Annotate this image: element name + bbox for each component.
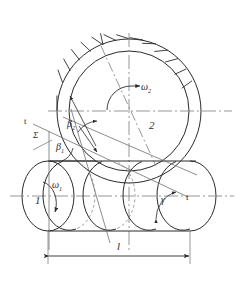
label-length-l: l	[117, 241, 120, 252]
omega2-subscript: 2	[148, 87, 151, 94]
label-shaft-angle-sigma: Σ	[33, 131, 38, 140]
label-tangent-lower: t	[186, 193, 189, 202]
crossed-helical-gear-figure	[0, 0, 242, 284]
omega2-rotation-arrow	[107, 86, 131, 110]
label-tangent-upper: t	[24, 117, 27, 126]
label-omega1: ω1	[52, 180, 62, 192]
label-beta2: β2	[67, 119, 75, 131]
label-worm-number-1: 1	[35, 195, 41, 206]
omega2-glyph: ω	[141, 81, 148, 92]
omega1-subscript: 1	[59, 185, 62, 192]
beta2-subscript: 2	[72, 124, 75, 131]
gear-wheel-2	[48, 33, 232, 250]
label-omega2: ω2	[141, 82, 151, 94]
omega1-glyph: ω	[52, 179, 59, 190]
gear-helix-axis-dashdot	[101, 46, 156, 166]
beta1-subscript: 1	[61, 147, 64, 154]
label-beta1: β1	[56, 142, 64, 154]
diagram-canvas: t Σ β2 β1 ω2 2 ω1 1 γ t l	[0, 0, 242, 284]
gear-tooth-end-segments	[57, 33, 103, 111]
label-gear-number-2: 2	[149, 120, 155, 131]
label-lead-angle-gamma: γ	[161, 195, 165, 205]
